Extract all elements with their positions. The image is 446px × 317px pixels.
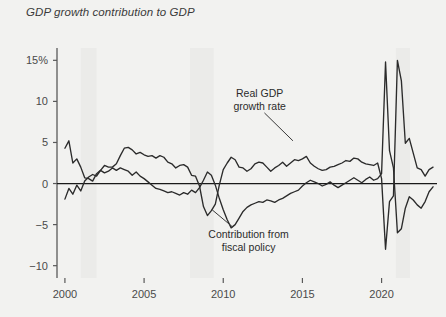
fiscal-policy-annotation-leader-line [212, 210, 233, 227]
xtick-group: 20002005201020152020 [53, 278, 394, 300]
recession-2020 [396, 48, 410, 278]
ytick-group: 15%1050−5−10 [26, 54, 57, 271]
fiscal-policy-annotation-line2: fiscal policy [222, 241, 276, 253]
x-tick-label: 2015 [290, 288, 314, 300]
real-gdp-annotation-line1: Real GDP [236, 87, 283, 99]
y-tick-label: 5 [42, 136, 48, 148]
real-gdp-annotation-leader-line [264, 113, 293, 141]
recession-2008 [190, 48, 214, 278]
real-gdp-annotation-line2: growth rate [233, 100, 286, 112]
y-tick-label: 15% [26, 54, 48, 66]
y-tick-label: 10 [36, 95, 48, 107]
annotations-group: Real GDPgrowth rateContribution fromfisc… [208, 87, 293, 252]
x-tick-label: 2020 [369, 288, 393, 300]
x-tick-label: 2005 [132, 288, 156, 300]
y-tick-label: −10 [29, 260, 48, 272]
y-tick-label: −5 [35, 219, 48, 231]
x-tick-label: 2000 [53, 288, 77, 300]
y-tick-label: 0 [42, 178, 48, 190]
fiscal-policy-annotation-line1: Contribution from [208, 228, 289, 240]
recession-2001 [81, 48, 97, 278]
chart-page: GDP growth contribution to GDP 15%1050−5… [0, 0, 446, 317]
gdp-growth-chart: 15%1050−5−10 20002005201020152020 Real G… [0, 0, 446, 317]
x-tick-label: 2010 [211, 288, 235, 300]
